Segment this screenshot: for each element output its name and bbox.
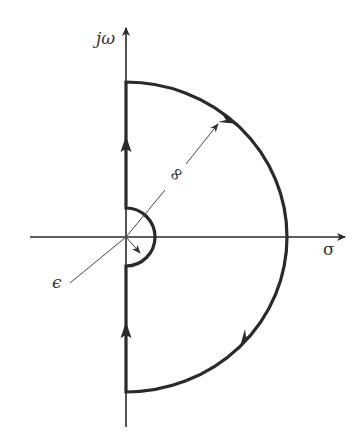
- infinity-radius-line-lower: [126, 190, 165, 237]
- arc-arrow-lower-icon: [239, 329, 252, 350]
- nyquist-contour-diagram: [0, 0, 357, 441]
- epsilon-radius-arrow: [126, 237, 140, 253]
- sigma-axis-label: σ: [323, 239, 335, 259]
- infinity-radius-line-upper: [186, 124, 218, 164]
- epsilon-label: ϵ: [52, 272, 62, 292]
- jomega-axis-label: jω: [96, 28, 115, 48]
- epsilon-radius-line: [70, 237, 126, 283]
